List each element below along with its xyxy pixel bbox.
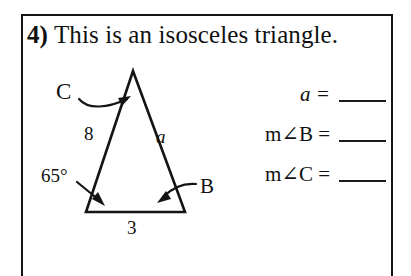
answer-list: a = m∠B = m∠C = [236,83,386,203]
answer-blank-angle-b[interactable] [339,140,386,142]
triangle-vertex-label-b: B [200,176,214,197]
triangle-side-label-right: a [156,127,166,146]
triangle-figure: C 8 a 65° B 3 [0,0,240,272]
triangle-side-label-left: 8 [84,124,94,143]
triangle-base-label: 3 [127,218,137,237]
answer-prompt-angle-b: m∠B = [236,123,330,145]
triangle-vertex-label-c: C [56,80,71,103]
arrow-to-vertex-c [79,96,131,107]
answer-row-angle-c: m∠C = [236,163,386,203]
answer-row-side-a: a = [236,83,386,123]
answer-blank-side-a[interactable] [339,100,386,102]
answer-prompt-side-a: a = [236,83,330,105]
triangle-drawing [0,0,240,272]
answer-prompt-text-a: a = [300,82,330,106]
arrow-to-vertex-b [157,184,196,203]
answer-prompt-angle-c: m∠C = [236,163,330,185]
arrow-to-base-angle [77,182,105,206]
triangle-angle-label: 65° [41,166,68,185]
answer-row-angle-b: m∠B = [236,123,386,163]
answer-blank-angle-c[interactable] [339,180,386,182]
